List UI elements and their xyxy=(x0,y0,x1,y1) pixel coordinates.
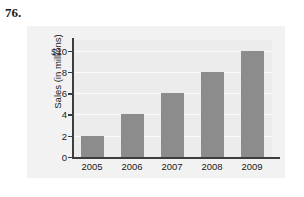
y-axis-tick-label: $10 xyxy=(27,45,67,56)
y-axis-tick-label: 8 xyxy=(27,66,67,77)
bar-2008 xyxy=(201,72,224,157)
y-axis-tick xyxy=(68,136,72,137)
x-axis-label-2007: 2007 xyxy=(152,161,192,172)
bar-2007 xyxy=(161,93,184,157)
y-axis-tick xyxy=(68,93,72,94)
x-axis-line xyxy=(72,157,280,159)
bar-2006 xyxy=(121,114,144,157)
bar-chart-figure: Sales (in millions) 02468$10200520062007… xyxy=(27,26,285,178)
bar-2009 xyxy=(241,51,264,157)
x-axis-label-2009: 2009 xyxy=(232,161,272,172)
plot-area xyxy=(72,40,272,157)
y-axis-tick xyxy=(68,51,72,52)
y-axis-tick-label: 2 xyxy=(27,130,67,141)
bar-2005 xyxy=(81,136,104,157)
y-axis-tick xyxy=(68,114,72,115)
y-axis-tick-label: 4 xyxy=(27,109,67,120)
y-axis-line xyxy=(72,38,74,159)
y-axis-tick xyxy=(68,72,72,73)
problem-number: 76. xyxy=(5,5,21,21)
y-axis-tick-label: 6 xyxy=(27,88,67,99)
x-axis-label-2006: 2006 xyxy=(112,161,152,172)
x-axis-label-2005: 2005 xyxy=(72,161,112,172)
y-axis-tick xyxy=(68,157,72,158)
x-axis-label-2008: 2008 xyxy=(192,161,232,172)
y-axis-tick-label: 0 xyxy=(27,152,67,163)
